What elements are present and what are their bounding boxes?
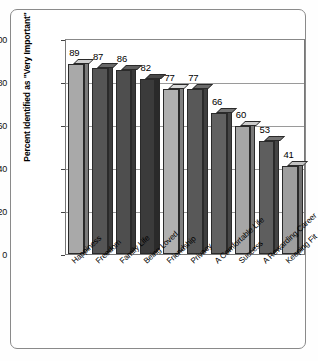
bar-side-face xyxy=(274,135,279,254)
bar-value-label-4: 77 xyxy=(164,72,174,83)
bar-front-face xyxy=(187,89,203,254)
bar-0 xyxy=(68,64,84,254)
bar-7 xyxy=(235,126,251,254)
bar-side-face xyxy=(298,161,303,254)
bar-front-face xyxy=(92,68,108,254)
bar-side-face xyxy=(250,120,255,254)
bar-value-label-9: 41 xyxy=(283,149,293,160)
bar-value-label-5: 77 xyxy=(188,72,198,83)
bar-front-face xyxy=(140,79,156,254)
y-tick-label-20: 20 xyxy=(0,208,7,217)
bar-value-label-2: 86 xyxy=(117,53,127,64)
bar-front-face xyxy=(259,141,275,254)
bar-value-label-1: 87 xyxy=(93,51,103,62)
bar-value-label-0: 89 xyxy=(69,47,79,58)
bar-value-label-6: 66 xyxy=(212,96,222,107)
bar-9 xyxy=(282,166,298,254)
bar-front-face xyxy=(211,113,227,254)
chart-figure: Percent Identified as "Very Important" 1… xyxy=(0,0,318,361)
bars-layer: 89878682777766605341 xyxy=(66,40,304,254)
y-tick-label-80: 80 xyxy=(0,79,7,88)
y-tick-mark-0 xyxy=(61,255,65,256)
bar-side-face xyxy=(227,108,232,254)
y-tick-label-0: 0 xyxy=(0,251,7,260)
bar-front-face xyxy=(116,70,132,254)
bar-front-face xyxy=(68,64,84,254)
bar-4 xyxy=(163,89,179,254)
bar-front-face xyxy=(235,126,251,254)
bar-front-face xyxy=(163,89,179,254)
y-axis-title: Percent Identified as "Very Important" xyxy=(22,0,32,187)
bar-value-label-3: 82 xyxy=(141,62,151,73)
bar-side-face xyxy=(179,84,184,254)
bar-5 xyxy=(187,89,203,254)
bar-value-label-7: 60 xyxy=(236,109,246,120)
bar-2 xyxy=(116,70,132,254)
bar-6 xyxy=(211,113,227,254)
bar-side-face xyxy=(155,73,160,254)
bar-8 xyxy=(259,141,275,254)
bar-3 xyxy=(140,79,156,254)
y-tick-label-100: 100 xyxy=(0,36,7,45)
figure-frame: Percent Identified as "Very Important" 1… xyxy=(10,9,306,349)
y-tick-label-40: 40 xyxy=(0,165,7,174)
bar-1 xyxy=(92,68,108,254)
y-tick-label-60: 60 xyxy=(0,122,7,131)
bar-side-face xyxy=(131,65,136,254)
bar-side-face xyxy=(84,58,89,254)
bar-front-face xyxy=(282,166,298,254)
bar-side-face xyxy=(108,63,113,254)
bar-value-label-8: 53 xyxy=(260,124,270,135)
plot-area: 89878682777766605341 xyxy=(65,39,305,255)
bar-side-face xyxy=(203,84,208,254)
